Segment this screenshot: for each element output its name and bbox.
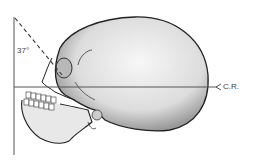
orbit — [56, 58, 72, 78]
central-ray-label: C.R. — [223, 82, 239, 91]
skull-illustration — [0, 0, 253, 160]
angle-label: 37° — [17, 46, 29, 55]
arrow-head-icon — [216, 84, 221, 90]
mastoid — [92, 110, 102, 120]
mandible — [22, 100, 92, 143]
skull-positioning-diagram: 37° C.R. — [0, 0, 253, 160]
